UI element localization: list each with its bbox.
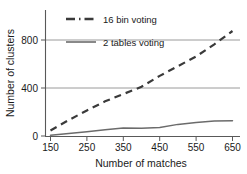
x-tick-label-450: 450 (151, 142, 168, 153)
y-tick-label-0: 0 (32, 131, 38, 142)
legend: 16 bin voting 2 tables voting (66, 14, 164, 48)
y-tick-label-400: 400 (21, 83, 38, 94)
y-tick-label-800: 800 (21, 35, 38, 46)
line-chart: 800 400 0 150 250 350 450 550 650 Number… (0, 0, 247, 174)
chart-container: 800 400 0 150 250 350 450 550 650 Number… (0, 0, 247, 174)
legend-label-2-tables-voting: 2 tables voting (103, 37, 164, 48)
x-tick-label-150: 150 (42, 142, 59, 153)
x-tick-label-350: 350 (115, 142, 132, 153)
x-tick-label-250: 250 (79, 142, 96, 153)
x-axis-title: Number of matches (95, 157, 187, 169)
legend-label-16-bin-voting: 16 bin voting (103, 14, 157, 25)
y-axis-title: Number of clusters (4, 29, 16, 117)
x-tick-label-550: 550 (188, 142, 205, 153)
series-line-2-tables-voting (51, 121, 233, 136)
x-tick-label-650: 650 (224, 142, 241, 153)
